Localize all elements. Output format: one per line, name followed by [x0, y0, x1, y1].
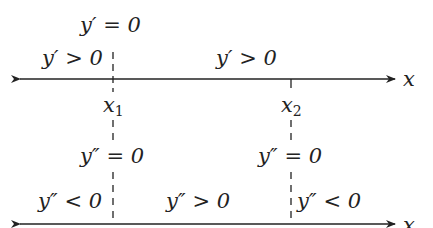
first-derivative-axis: x y′ = 0 y′ > 0 y′ > 0 x1 x2 — [20, 13, 415, 119]
axis-2-label: x — [403, 213, 415, 228]
point-x1-label: x1 — [103, 93, 124, 119]
label-ydoubleprime-lt-0-right: y″ < 0 — [296, 189, 361, 213]
label-yprime-gt-0-left: y′ > 0 — [41, 46, 103, 70]
label-yprime-eq-0: y′ = 0 — [79, 13, 141, 37]
label-ydoubleprime-gt-0-middle: y″ > 0 — [165, 189, 230, 213]
sign-chart-diagram: x y′ = 0 y′ > 0 y′ > 0 x1 x2 y″ = 0 y″ =… — [0, 0, 433, 228]
point-x2-label: x2 — [281, 93, 302, 119]
label-ydoubleprime-lt-0-left: y″ < 0 — [37, 189, 102, 213]
label-ydoubleprime-eq-0-x2: y″ = 0 — [257, 144, 322, 168]
label-yprime-gt-0-middle: y′ > 0 — [215, 46, 277, 70]
axis-1-label: x — [403, 67, 415, 91]
label-ydoubleprime-eq-0-x1: y″ = 0 — [79, 144, 144, 168]
second-derivative-axis: y″ = 0 y″ = 0 y″ < 0 y″ > 0 y″ < 0 x — [20, 144, 415, 228]
